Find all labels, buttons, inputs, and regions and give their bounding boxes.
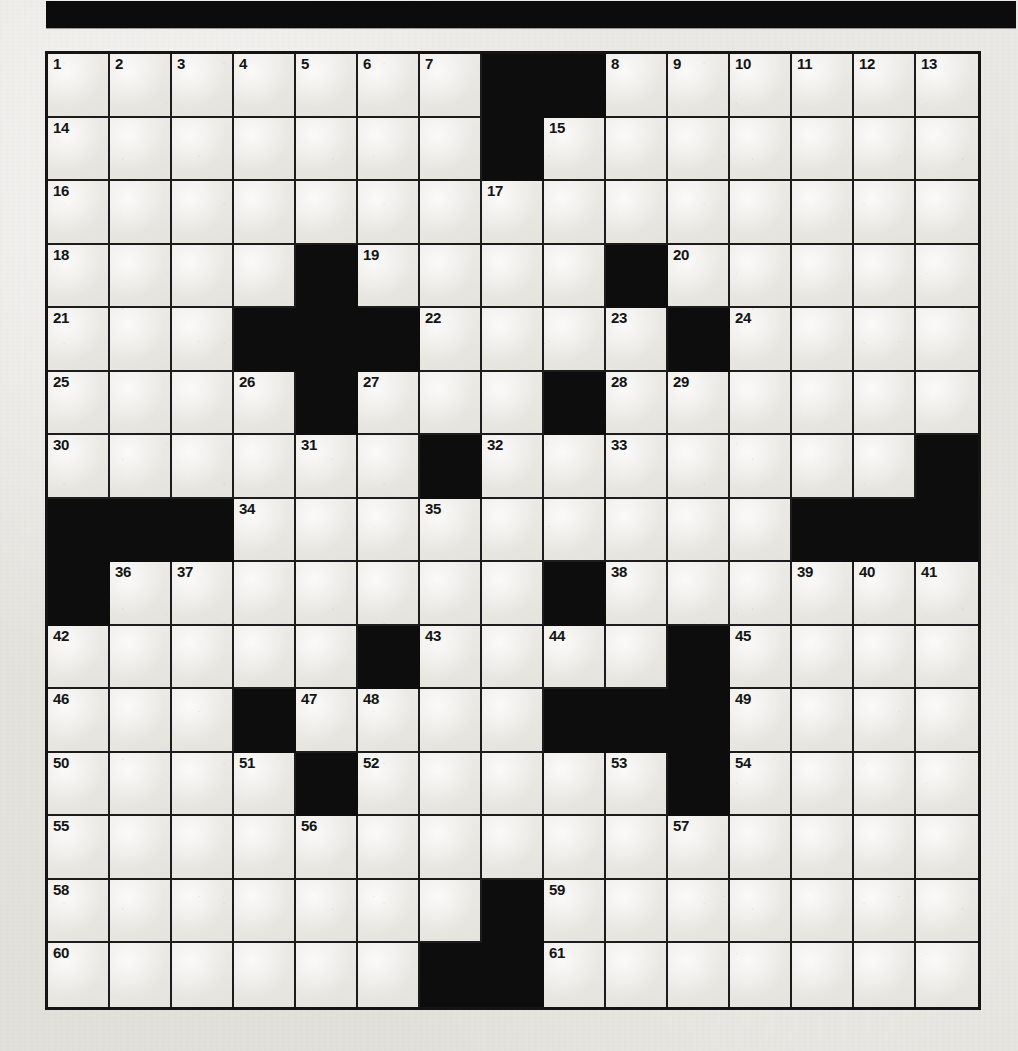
grid-cell[interactable]: 51 (234, 753, 296, 817)
grid-cell[interactable] (110, 181, 172, 245)
grid-cell[interactable] (358, 562, 420, 626)
grid-cell[interactable]: 4 (234, 54, 296, 118)
grid-cell[interactable] (854, 689, 916, 753)
grid-cell[interactable] (358, 118, 420, 182)
grid-cell[interactable] (420, 689, 482, 753)
grid-cell[interactable]: 20 (668, 245, 730, 309)
grid-cell[interactable] (172, 943, 234, 1007)
grid-cell[interactable] (730, 118, 792, 182)
grid-cell[interactable] (110, 245, 172, 309)
grid-cell[interactable] (792, 181, 854, 245)
grid-cell[interactable] (792, 308, 854, 372)
grid-cell[interactable] (110, 308, 172, 372)
grid-cell[interactable] (296, 880, 358, 944)
grid-cell[interactable]: 52 (358, 753, 420, 817)
grid-cell[interactable] (358, 181, 420, 245)
grid-cell[interactable]: 36 (110, 562, 172, 626)
grid-cell[interactable] (792, 816, 854, 880)
grid-cell[interactable] (544, 499, 606, 563)
grid-cell[interactable] (172, 372, 234, 436)
grid-cell[interactable] (916, 181, 978, 245)
grid-cell[interactable]: 3 (172, 54, 234, 118)
grid-cell[interactable] (668, 562, 730, 626)
grid-cell[interactable] (110, 689, 172, 753)
grid-cell[interactable]: 56 (296, 816, 358, 880)
grid-cell[interactable] (854, 245, 916, 309)
grid-cell[interactable] (110, 435, 172, 499)
grid-cell[interactable] (420, 118, 482, 182)
grid-cell[interactable] (668, 499, 730, 563)
grid-cell[interactable] (234, 943, 296, 1007)
grid-cell[interactable] (854, 181, 916, 245)
grid-cell[interactable] (172, 118, 234, 182)
grid-cell[interactable] (544, 181, 606, 245)
grid-cell[interactable]: 26 (234, 372, 296, 436)
grid-cell[interactable] (172, 181, 234, 245)
grid-cell[interactable] (420, 816, 482, 880)
grid-cell[interactable]: 31 (296, 435, 358, 499)
grid-cell[interactable]: 17 (482, 181, 544, 245)
grid-cell[interactable] (234, 435, 296, 499)
grid-cell[interactable]: 44 (544, 626, 606, 690)
grid-cell[interactable]: 14 (48, 118, 110, 182)
grid-cell[interactable] (234, 562, 296, 626)
grid-cell[interactable] (358, 816, 420, 880)
grid-cell[interactable] (854, 816, 916, 880)
grid-cell[interactable]: 46 (48, 689, 110, 753)
grid-cell[interactable] (792, 245, 854, 309)
grid-cell[interactable]: 33 (606, 435, 668, 499)
grid-cell[interactable] (482, 689, 544, 753)
grid-cell[interactable] (110, 816, 172, 880)
grid-cell[interactable] (792, 435, 854, 499)
grid-cell[interactable]: 8 (606, 54, 668, 118)
grid-cell[interactable] (296, 943, 358, 1007)
grid-cell[interactable] (916, 816, 978, 880)
grid-cell[interactable]: 59 (544, 880, 606, 944)
grid-cell[interactable] (730, 372, 792, 436)
grid-cell[interactable]: 21 (48, 308, 110, 372)
grid-cell[interactable] (792, 880, 854, 944)
grid-cell[interactable]: 32 (482, 435, 544, 499)
grid-cell[interactable] (854, 308, 916, 372)
grid-cell[interactable] (234, 626, 296, 690)
grid-cell[interactable] (110, 880, 172, 944)
grid-cell[interactable] (730, 435, 792, 499)
grid-cell[interactable]: 13 (916, 54, 978, 118)
grid-cell[interactable]: 11 (792, 54, 854, 118)
grid-cell[interactable] (172, 245, 234, 309)
grid-cell[interactable]: 39 (792, 562, 854, 626)
grid-cell[interactable]: 55 (48, 816, 110, 880)
grid-cell[interactable] (792, 943, 854, 1007)
grid-cell[interactable]: 49 (730, 689, 792, 753)
grid-cell[interactable] (606, 499, 668, 563)
grid-cell[interactable] (916, 880, 978, 944)
grid-cell[interactable]: 48 (358, 689, 420, 753)
grid-cell[interactable]: 30 (48, 435, 110, 499)
grid-cell[interactable] (420, 880, 482, 944)
grid-cell[interactable] (358, 943, 420, 1007)
grid-cell[interactable]: 27 (358, 372, 420, 436)
grid-cell[interactable]: 47 (296, 689, 358, 753)
grid-cell[interactable]: 16 (48, 181, 110, 245)
grid-cell[interactable] (482, 245, 544, 309)
grid-cell[interactable]: 23 (606, 308, 668, 372)
grid-cell[interactable] (606, 880, 668, 944)
grid-cell[interactable]: 15 (544, 118, 606, 182)
grid-cell[interactable] (730, 499, 792, 563)
grid-cell[interactable] (916, 943, 978, 1007)
grid-cell[interactable] (358, 435, 420, 499)
grid-cell[interactable] (916, 626, 978, 690)
grid-cell[interactable]: 9 (668, 54, 730, 118)
grid-cell[interactable] (606, 816, 668, 880)
grid-cell[interactable] (234, 181, 296, 245)
grid-cell[interactable]: 38 (606, 562, 668, 626)
grid-cell[interactable] (420, 562, 482, 626)
grid-cell[interactable] (854, 118, 916, 182)
grid-cell[interactable] (606, 626, 668, 690)
grid-cell[interactable]: 18 (48, 245, 110, 309)
grid-cell[interactable]: 57 (668, 816, 730, 880)
grid-cell[interactable] (172, 753, 234, 817)
grid-cell[interactable] (792, 753, 854, 817)
grid-cell[interactable] (172, 626, 234, 690)
grid-cell[interactable]: 42 (48, 626, 110, 690)
